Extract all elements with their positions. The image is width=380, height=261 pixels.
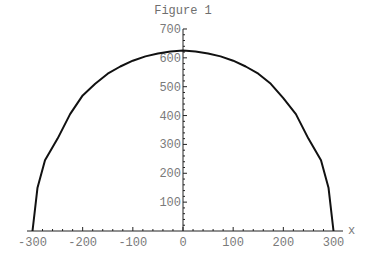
x-tick-label: -100 xyxy=(118,236,147,250)
chart-title: Figure 1 xyxy=(154,4,212,18)
y-tick-label: 600 xyxy=(159,52,181,66)
x-tick-label: -300 xyxy=(18,236,47,250)
x-tick-label: 0 xyxy=(179,236,186,250)
x-axis-ticks: -300-200-1000100200300 xyxy=(18,227,344,250)
y-tick-label: 300 xyxy=(159,138,181,152)
x-tick-label: 100 xyxy=(222,236,244,250)
y-tick-label: 400 xyxy=(159,110,181,124)
chart-plot: Figure 1 -300-200-1000100200300 10020030… xyxy=(0,0,380,261)
axes xyxy=(27,29,343,231)
y-tick-label: 200 xyxy=(159,167,181,181)
x-tick-label: 300 xyxy=(323,236,345,250)
y-tick-label: 500 xyxy=(159,81,181,95)
y-tick-label: 100 xyxy=(159,196,181,210)
x-tick-label: -200 xyxy=(68,236,97,250)
x-axis-label: x xyxy=(348,224,355,238)
x-tick-label: 200 xyxy=(273,236,295,250)
y-tick-label: 700 xyxy=(159,23,181,37)
